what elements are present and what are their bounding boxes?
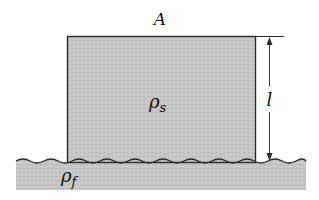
fluid-density-symbol: ρ	[60, 165, 72, 186]
solid-density-symbol: ρ	[148, 91, 160, 112]
length-label: l	[267, 89, 273, 110]
fluid-region	[16, 159, 306, 190]
arrow-up-icon	[267, 37, 273, 45]
solid-density-subscript: s	[160, 100, 167, 115]
buoyancy-diagram: A l ρs ρf	[0, 0, 319, 200]
area-label: A	[152, 9, 166, 29]
